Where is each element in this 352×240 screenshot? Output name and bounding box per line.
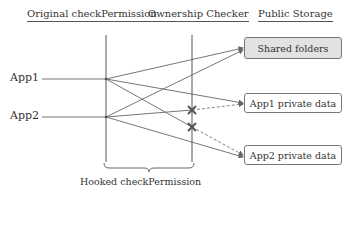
app1-to-shared	[106, 48, 243, 79]
app2-to-shared	[106, 50, 243, 117]
app1-label: App1	[10, 71, 39, 84]
app2-label: App2	[10, 109, 39, 122]
hooked-brace	[104, 163, 194, 172]
hooked-checkpermission-label: Hooked checkPermission	[80, 176, 201, 187]
app1-to-app1-private	[106, 79, 243, 103]
app1-private-data-box: App1 private data	[244, 93, 342, 113]
app2-to-app2-private	[106, 117, 243, 157]
shared-folders-box: Shared folders	[244, 37, 342, 59]
app2-to-app1-private-blocked	[192, 104, 243, 110]
app1-to-app2-private-blocked	[192, 127, 243, 155]
app2-private-data-box: App2 private data	[244, 145, 342, 165]
